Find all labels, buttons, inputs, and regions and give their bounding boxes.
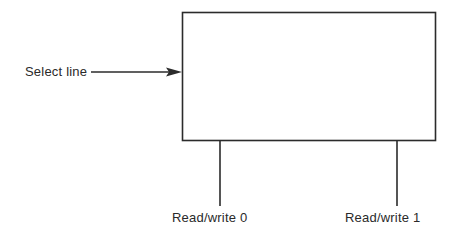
storage-cell-box: [183, 13, 436, 141]
select-line-label: Select line: [25, 64, 87, 79]
read-write-1-label: Read/write 1: [345, 210, 420, 225]
read-write-0-label: Read/write 0: [172, 210, 247, 225]
diagram-canvas: [0, 0, 469, 239]
